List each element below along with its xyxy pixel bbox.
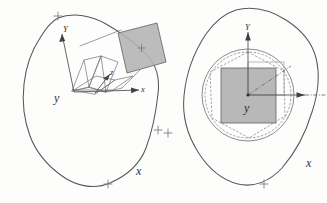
left-axis-Y-arrowhead	[59, 34, 65, 42]
plus-marker-bottom	[260, 180, 268, 188]
right-axis-Y-arrowhead	[245, 32, 251, 41]
left-label-y: y	[53, 91, 60, 105]
left-label-x-global: x	[135, 164, 142, 178]
right-axis-x-arrowhead	[297, 92, 306, 98]
left-axis-x-arrowhead	[131, 87, 139, 93]
plus-marker-right	[154, 126, 162, 134]
right-label-Y: Y	[245, 22, 251, 32]
left-label-z: z	[109, 67, 114, 77]
right-outline-markers	[164, 129, 268, 188]
plus-marker-left	[164, 129, 172, 137]
left-label-Y: Y	[63, 24, 69, 34]
plus-marker-bottom	[104, 180, 112, 188]
right-center-node	[246, 93, 249, 96]
left-panel-reference-configuration: Y y x z x	[0, 0, 164, 203]
right-label-y: y	[243, 101, 250, 115]
left-element-mesh-zigzag	[72, 56, 133, 94]
left-label-x-local: x	[140, 84, 145, 94]
plus-marker-top	[54, 12, 62, 20]
right-label-x-global: x	[305, 156, 312, 170]
figure-root: Y y x z x	[0, 0, 327, 203]
left-axis-Y-line	[62, 34, 74, 92]
left-shaded-patch-group	[118, 23, 166, 73]
right-panel-deformed-configuration: Y y x	[164, 0, 327, 203]
